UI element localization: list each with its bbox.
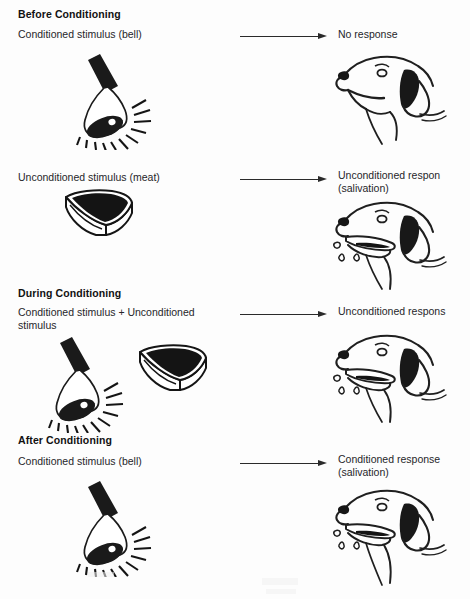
right-arrow-icon xyxy=(240,176,330,184)
section-heading: After Conditioning xyxy=(18,434,112,446)
scan-artifact xyxy=(266,589,296,594)
diagram-canvas: Before Conditioning Conditioned stimulus… xyxy=(0,0,470,599)
response-label-line-1: Conditioned response xyxy=(338,453,440,466)
response-label: Conditioned response (salivation) xyxy=(338,453,440,478)
response-label: Unconditioned respon (salivation) xyxy=(338,169,440,194)
scan-artifact xyxy=(88,572,114,577)
right-arrow-icon xyxy=(240,33,330,41)
bell-icon xyxy=(58,52,168,154)
right-arrow-icon xyxy=(240,311,330,319)
section-during-conditioning: During Conditioning Conditioned stimulus… xyxy=(0,280,470,425)
bell-icon xyxy=(58,479,168,581)
response-label: No response xyxy=(338,28,398,41)
dog-head-salivating-icon xyxy=(326,483,470,597)
response-label-line-1: Unconditioned respon xyxy=(338,169,440,182)
stimulus-label: Conditioned stimulus (bell) xyxy=(18,28,142,41)
meat-icon xyxy=(136,342,216,402)
meat-icon xyxy=(62,187,142,247)
section-after-conditioning: After Conditioning Conditioned stimulus … xyxy=(0,425,470,599)
right-arrow-icon xyxy=(240,460,330,468)
dog-head-salivating-icon xyxy=(326,328,470,432)
dog-head-neutral-icon xyxy=(326,48,466,156)
stimulus-label-line-1: Conditioned stimulus + Unconditioned xyxy=(18,306,233,319)
section-unconditioned-stimulus: Unconditioned stimulus (meat) Unconditio… xyxy=(0,155,470,280)
stimulus-label-line-2: stimulus xyxy=(18,319,233,332)
response-label: Unconditioned respons xyxy=(338,305,445,318)
section-heading: During Conditioning xyxy=(18,287,121,299)
stimulus-label: Unconditioned stimulus (meat) xyxy=(18,171,160,184)
bell-icon xyxy=(30,335,140,437)
stimulus-label: Conditioned stimulus (bell) xyxy=(18,455,142,468)
section-heading: Before Conditioning xyxy=(18,8,121,20)
response-label-line-2: (salivation) xyxy=(338,182,440,195)
section-before-conditioning: Before Conditioning Conditioned stimulus… xyxy=(0,0,470,155)
scan-artifact xyxy=(262,578,298,585)
stimulus-label: Conditioned stimulus + Unconditioned sti… xyxy=(18,306,233,331)
response-label-line-2: (salivation) xyxy=(338,466,440,479)
